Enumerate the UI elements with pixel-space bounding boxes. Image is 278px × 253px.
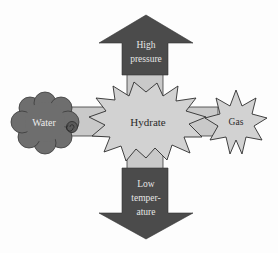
low-temperature-label-line2: temper- bbox=[131, 193, 160, 203]
low-temperature-label-line3: ature bbox=[137, 207, 156, 217]
low-temperature-label-line1: Low bbox=[137, 179, 155, 189]
water-droplet-swirl-icon bbox=[67, 122, 78, 133]
hydrate-label: Hydrate bbox=[130, 116, 166, 128]
high-pressure-label-line2: pressure bbox=[130, 54, 162, 64]
high-pressure-label-line1: High bbox=[137, 40, 156, 50]
hydrate-formation-diagram: Water Hydrate Gas High pressure Low temp… bbox=[0, 0, 278, 253]
water-label: Water bbox=[32, 117, 56, 128]
gas-label: Gas bbox=[229, 117, 244, 127]
diagram-canvas: Water Hydrate Gas High pressure Low temp… bbox=[0, 0, 278, 253]
